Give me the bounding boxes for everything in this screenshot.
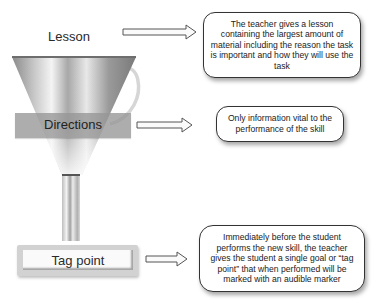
callout-directions: Only information vital to the performanc… (216, 106, 344, 142)
right-arrow-icon (145, 251, 189, 267)
callout-directions-text: Only information vital to the performanc… (223, 113, 337, 134)
callout-tag-point: Immediately before the student performs … (199, 225, 365, 292)
callout-lesson: The teacher gives a lesson containing th… (203, 12, 361, 78)
stage-label-directions: Directions (15, 117, 131, 132)
right-arrow-icon (136, 117, 194, 133)
stage-label-tag-point: Tag point (23, 250, 133, 270)
funnel-icon (0, 50, 160, 250)
callout-tag-point-text: Immediately before the student performs … (206, 232, 358, 285)
callout-lesson-text: The teacher gives a lesson containing th… (210, 19, 354, 72)
right-arrow-icon (122, 24, 198, 40)
stage-label-lesson: Lesson (48, 29, 90, 44)
